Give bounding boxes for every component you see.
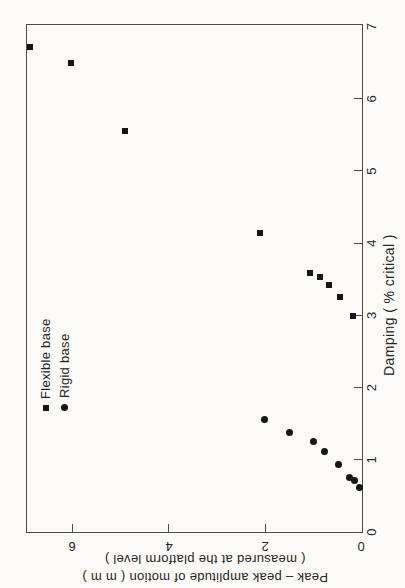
data-point-flexible-base	[122, 128, 128, 134]
legend-label-rigid-base: Rigid base	[57, 334, 72, 398]
data-point-rigid-base	[261, 416, 268, 423]
data-point-flexible-base	[350, 313, 356, 319]
y-axis-title: Peak – peak amplitude of motion ( m m ) …	[25, 550, 385, 586]
circle-marker-icon	[61, 404, 68, 411]
legend: Flexible base Rigid base	[36, 319, 74, 412]
legend-item-rigid-base: Rigid base	[55, 319, 74, 412]
x-axis-title: Damping ( % critical )	[381, 175, 397, 435]
y-axis-tick-6	[72, 524, 73, 532]
x-axis-tick-6	[354, 98, 362, 99]
data-point-rigid-base	[346, 474, 353, 481]
data-point-flexible-base	[326, 282, 332, 288]
data-point-rigid-base	[335, 461, 342, 468]
data-point-rigid-base	[286, 429, 293, 436]
data-point-flexible-base	[317, 274, 323, 280]
x-axis-tick-label-6: 6	[364, 88, 379, 110]
y-axis-tick-2	[265, 524, 266, 532]
x-axis-tick-label-7: 7	[364, 16, 379, 38]
y-axis-title-line2: ( measured at the platform level )	[25, 550, 385, 568]
plot-area: 012345670246 Flexible base Rigid base	[26, 24, 363, 533]
y-axis-tick-4	[168, 524, 169, 532]
y-axis-title-line1: Peak – peak amplitude of motion ( m m )	[25, 568, 385, 586]
x-axis-tick-label-1: 1	[364, 449, 379, 471]
x-axis-tick-5	[354, 171, 362, 172]
chart-stage: 012345670246 Flexible base Rigid base Da…	[0, 0, 405, 588]
x-axis-tick-2	[354, 387, 362, 388]
x-axis-tick-label-4: 4	[364, 232, 379, 254]
scanned-figure-page: 012345670246 Flexible base Rigid base Da…	[0, 0, 405, 588]
x-axis-tick-label-2: 2	[364, 377, 379, 399]
legend-label-flexible-base: Flexible base	[38, 319, 53, 400]
square-marker-icon	[43, 405, 49, 411]
data-point-rigid-base	[321, 448, 328, 455]
x-axis-tick-1	[354, 459, 362, 460]
data-point-flexible-base	[337, 294, 343, 300]
data-point-flexible-base	[307, 270, 313, 276]
x-axis-tick-label-3: 3	[364, 304, 379, 326]
data-point-rigid-base	[310, 438, 317, 445]
x-axis-tick-4	[354, 243, 362, 244]
data-point-flexible-base	[27, 44, 33, 50]
data-point-flexible-base	[68, 60, 74, 66]
data-point-rigid-base	[356, 484, 363, 491]
data-point-flexible-base	[257, 230, 263, 236]
x-axis-tick-label-5: 5	[364, 160, 379, 182]
legend-item-flexible-base: Flexible base	[36, 319, 55, 412]
